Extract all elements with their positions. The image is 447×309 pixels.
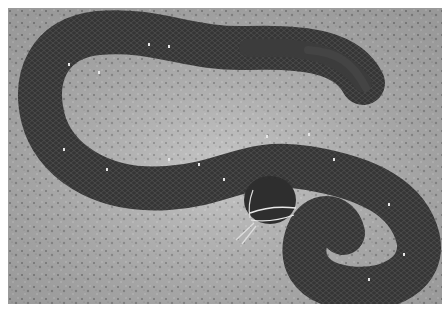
snake-head bbox=[244, 176, 296, 224]
snake-photo bbox=[8, 8, 442, 304]
